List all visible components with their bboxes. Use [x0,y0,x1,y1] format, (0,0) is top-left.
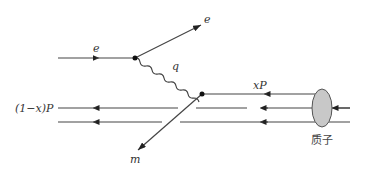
feynman-diagram: e e q xP (1−x)P m 质子 [0,0,367,171]
outgoing-electron-label: e [204,13,211,26]
proton-label: 质子 [311,134,333,147]
struck-quark-label: xP [253,79,267,92]
outgoing-electron-line [135,25,201,58]
vertex-electron-photon [133,56,138,61]
spectator-label: (1−x)P [15,102,54,115]
photon-wavy-line [135,58,199,102]
proton-blob [312,89,332,127]
vertex-photon-quark [200,92,205,97]
incoming-electron-label: e [93,42,100,55]
outgoing-particle-label: m [130,153,140,166]
photon-label: q [172,60,179,73]
